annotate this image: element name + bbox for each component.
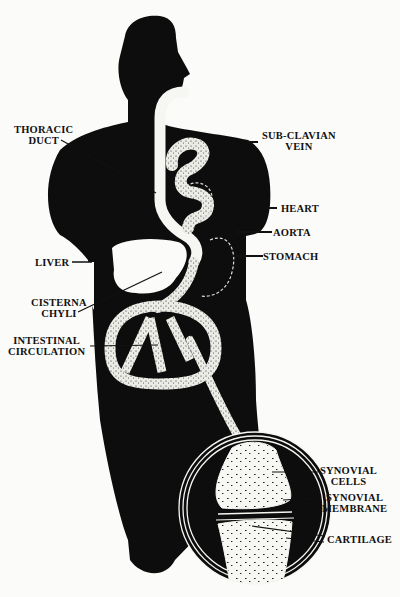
label-heart: HEART [281,203,319,214]
anatomy-diagram: THORACIC DUCT SUB-CLAVIAN VEIN HEART AOR… [0,0,400,597]
label-aorta: AORTA [273,227,311,238]
label-cartilage: CARTILAGE [327,534,392,545]
label-thoracic-duct: THORACIC DUCT [14,124,73,146]
label-liver: LIVER [35,257,69,268]
label-intestinal-circulation: INTESTINAL CIRCULATION [8,335,85,357]
label-sub-clavian-vein: SUB-CLAVIAN VEIN [262,130,336,152]
label-stomach: STOMACH [263,251,318,262]
knee-joint [179,432,331,584]
label-cisterna-chyli: CISTERNA CHYLI [31,297,87,319]
label-synovial-membrane: SYNOVIAL MEMBRANE [322,492,387,514]
label-synovial-cells: SYNOVIAL CELLS [320,465,377,487]
